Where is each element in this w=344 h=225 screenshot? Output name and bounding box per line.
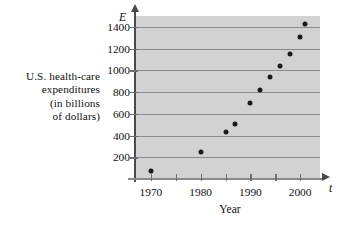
y-tick-200 bbox=[130, 157, 138, 158]
gridline-y-1000 bbox=[136, 70, 320, 71]
data-point bbox=[223, 129, 228, 134]
x-axis-title: Year bbox=[185, 203, 275, 216]
x-tick-label-2000: 2000 bbox=[280, 186, 320, 198]
gridline-y-1200 bbox=[136, 49, 320, 50]
x-tick-1975 bbox=[176, 174, 177, 181]
x-tick-1995 bbox=[275, 174, 276, 181]
data-point bbox=[278, 63, 283, 68]
y-tick-label-1000: 1000 bbox=[96, 64, 130, 76]
x-tick-1970 bbox=[151, 174, 152, 181]
y-axis-arrowhead bbox=[131, 4, 139, 12]
y-axis-caption-line-2: expenditures bbox=[4, 83, 100, 96]
gridline-y-200 bbox=[136, 157, 320, 158]
gridline-y-1400 bbox=[136, 27, 320, 28]
gridline-y-600 bbox=[136, 114, 320, 115]
x-axis-arrowhead bbox=[322, 173, 330, 181]
data-point bbox=[148, 168, 153, 173]
data-point bbox=[268, 74, 273, 79]
y-tick-label-1200: 1200 bbox=[96, 43, 130, 55]
plot-area bbox=[136, 16, 320, 179]
y-axis-caption-line-3: (in billions bbox=[4, 97, 100, 110]
y-tick-1200 bbox=[130, 49, 138, 50]
y-tick-label-400: 400 bbox=[96, 130, 130, 142]
x-axis-variable-label: t bbox=[329, 182, 332, 195]
x-tick-1990 bbox=[250, 174, 251, 181]
y-tick-600 bbox=[130, 114, 138, 115]
y-axis-caption-line-4: of dollars) bbox=[4, 110, 100, 123]
x-tick-1980 bbox=[201, 174, 202, 181]
y-axis-caption-line-1: U.S. health-care bbox=[4, 70, 100, 83]
x-tick-label-1980: 1980 bbox=[181, 186, 221, 198]
gridline-y-400 bbox=[136, 136, 320, 137]
y-tick-label-800: 800 bbox=[96, 86, 130, 98]
x-tick-label-1970: 1970 bbox=[131, 186, 171, 198]
y-tick-label-600: 600 bbox=[96, 108, 130, 120]
y-tick-1400 bbox=[130, 27, 138, 28]
data-point bbox=[298, 34, 303, 39]
x-tick-2000 bbox=[300, 174, 301, 181]
data-point bbox=[233, 122, 238, 127]
data-point bbox=[258, 87, 263, 92]
y-axis-line bbox=[134, 10, 136, 182]
y-tick-label-1400: 1400 bbox=[96, 21, 130, 33]
data-point bbox=[198, 150, 203, 155]
data-point bbox=[288, 52, 293, 57]
y-tick-400 bbox=[130, 136, 138, 137]
y-tick-label-200: 200 bbox=[96, 151, 130, 163]
x-tick-label-1990: 1990 bbox=[230, 186, 270, 198]
data-point bbox=[248, 101, 253, 106]
scatter-chart-figure: U.S. health-care expenditures (in billio… bbox=[0, 0, 344, 225]
y-tick-800 bbox=[130, 92, 138, 93]
x-tick-1985 bbox=[226, 174, 227, 181]
y-tick-1000 bbox=[130, 70, 138, 71]
gridline-y-800 bbox=[136, 92, 320, 93]
y-axis-caption: U.S. health-care expenditures (in billio… bbox=[4, 70, 100, 124]
data-point bbox=[303, 22, 308, 27]
